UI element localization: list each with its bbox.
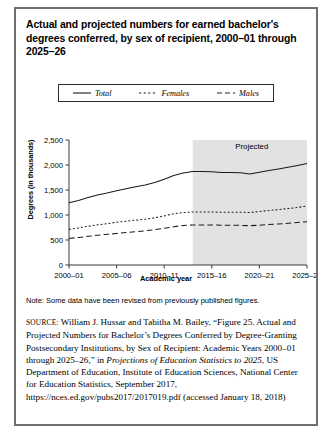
line-chart: Projected05001,0001,5002,0002,5002000–01… bbox=[16, 113, 316, 288]
figure-note: Note: Some data have been revised from p… bbox=[26, 296, 311, 306]
y-tick-label: 2,000 bbox=[44, 161, 63, 170]
y-axis-label: Degrees (in thousands) bbox=[26, 130, 35, 230]
y-tick-label: 0 bbox=[59, 261, 63, 270]
legend-item-females: Females bbox=[139, 89, 189, 98]
figure-source: SOURCE: William J. Hussar and Tabitha M.… bbox=[26, 316, 309, 403]
chart-plot-area: Projected05001,0001,5002,0002,5002000–01… bbox=[16, 113, 316, 288]
legend-line-solid-icon bbox=[73, 90, 91, 96]
legend-line-dashed-icon bbox=[217, 90, 235, 96]
source-label: SOURCE: bbox=[26, 318, 59, 327]
projected-region bbox=[193, 140, 307, 265]
y-tick-label: 1,000 bbox=[44, 211, 63, 220]
projected-annotation: Projected bbox=[235, 142, 268, 151]
y-tick-label: 500 bbox=[50, 236, 63, 245]
chart-legend: Total Females Males bbox=[58, 84, 274, 102]
y-tick-label: 2,500 bbox=[44, 136, 63, 145]
source-publication-title: Projections of Education Statistics to 2… bbox=[106, 355, 262, 365]
legend-label-females: Females bbox=[161, 89, 189, 98]
figure-border: Actual and projected numbers for earned … bbox=[14, 7, 318, 426]
figure-content: Actual and projected numbers for earned … bbox=[16, 9, 316, 424]
legend-label-males: Males bbox=[239, 89, 259, 98]
x-axis-label: Academic year bbox=[16, 274, 316, 283]
figure-title: Actual and projected numbers for earned … bbox=[26, 18, 308, 59]
legend-item-total: Total bbox=[73, 89, 112, 98]
legend-line-dotted-icon bbox=[139, 90, 157, 96]
legend-label-total: Total bbox=[95, 89, 112, 98]
figure-root: Actual and projected numbers for earned … bbox=[0, 0, 330, 433]
y-tick-label: 1,500 bbox=[44, 186, 63, 195]
legend-item-males: Males bbox=[217, 89, 259, 98]
